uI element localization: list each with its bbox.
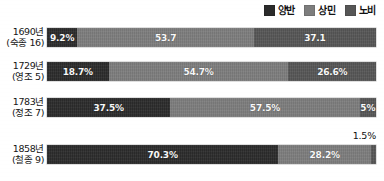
segment-value-label: 26.6% [317, 67, 347, 77]
bar-segment-양반[interactable]: 9.2% [47, 28, 77, 47]
legend-item[interactable]: 상민 [304, 5, 335, 16]
legend-swatch-icon [264, 5, 275, 16]
stacked-bar: 37.5%57.5%5% [47, 98, 376, 117]
chart-row: 1858년(철종 9)70.3%28.2%1.5% [0, 141, 384, 167]
legend-swatch-icon [304, 5, 315, 16]
legend-item-label: 노비 [359, 5, 376, 16]
chart-legend: 양반상민노비 [264, 3, 376, 17]
bar-segment-양반[interactable]: 37.5% [47, 98, 170, 117]
row-category-label: 1690년(숙종 16) [0, 24, 44, 50]
segment-value-callout-label: 1.5% [353, 130, 376, 141]
row-year-label: 1783년 [13, 96, 44, 107]
row-category-label: 1729년(영조 5) [0, 58, 44, 84]
segment-value-label: 37.1 [304, 33, 325, 43]
bar-segment-상민[interactable]: 54.7% [109, 62, 289, 81]
row-reign-label: (영조 5) [12, 71, 44, 82]
segment-value-label: 54.7% [183, 67, 213, 77]
row-year-label: 1729년 [13, 60, 44, 71]
chart-row: 1729년(영조 5)18.7%54.7%26.6% [0, 58, 384, 84]
stacked-bar-chart: 양반상민노비 1690년(숙종 16)9.2%53.737.11729년(영조 … [0, 0, 384, 181]
segment-value-label: 9.2% [50, 33, 74, 43]
stacked-bar: 70.3%28.2% [47, 145, 376, 164]
row-reign-label: (철종 9) [12, 154, 44, 165]
stacked-bar: 18.7%54.7%26.6% [47, 62, 376, 81]
segment-value-label: 18.7% [63, 67, 93, 77]
row-reign-label: (숙종 16) [6, 37, 44, 48]
row-year-label: 1690년 [13, 26, 44, 37]
bar-segment-노비[interactable]: 26.6% [288, 62, 376, 81]
bar-segment-노비[interactable] [371, 145, 376, 164]
row-category-label: 1858년(철종 9) [0, 141, 44, 167]
segment-value-label: 57.5% [250, 103, 280, 113]
stacked-bar: 9.2%53.737.1 [47, 28, 376, 47]
segment-value-label: 5% [360, 103, 375, 113]
chart-row: 1690년(숙종 16)9.2%53.737.1 [0, 24, 384, 50]
bar-segment-노비[interactable]: 37.1 [254, 28, 376, 47]
segment-value-label: 70.3% [148, 150, 178, 160]
legend-item-label: 상민 [318, 5, 335, 16]
legend-item-label: 양반 [278, 5, 295, 16]
segment-value-label: 53.7 [155, 33, 176, 43]
legend-swatch-icon [345, 5, 356, 16]
bar-segment-양반[interactable]: 70.3% [47, 145, 278, 164]
bar-segment-양반[interactable]: 18.7% [47, 62, 109, 81]
chart-row: 1783년(정조 7)37.5%57.5%5% [0, 94, 384, 120]
legend-item[interactable]: 양반 [264, 5, 295, 16]
bar-segment-상민[interactable]: 28.2% [278, 145, 371, 164]
bar-segment-노비[interactable]: 5% [360, 98, 376, 117]
bar-segment-상민[interactable]: 57.5% [170, 98, 359, 117]
bar-segment-상민[interactable]: 53.7 [77, 28, 254, 47]
legend-item[interactable]: 노비 [345, 5, 376, 16]
row-year-label: 1858년 [13, 143, 44, 154]
row-category-label: 1783년(정조 7) [0, 94, 44, 120]
segment-value-label: 37.5% [94, 103, 124, 113]
row-reign-label: (정조 7) [12, 107, 44, 118]
segment-value-label: 28.2% [310, 150, 340, 160]
